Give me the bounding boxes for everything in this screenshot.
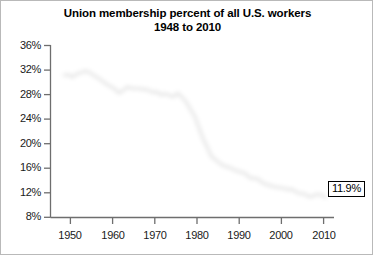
x-tick-label-6: 2010 [304,229,344,241]
x-axis-ticks [70,218,323,225]
x-tick-label-0: 1950 [50,229,90,241]
y-axis-ticks [44,46,51,218]
chart-figure: Union membership percent of all U.S. wor… [0,0,373,255]
chart-plot-area [1,1,373,255]
y-tick-label-5: 16% [1,161,41,173]
chart-axes [44,45,334,224]
y-tick-label-0: 36% [1,39,41,51]
y-tick-label-1: 32% [1,63,41,75]
y-tick-label-7: 8% [1,210,41,222]
data-line-union-membership [62,67,324,193]
x-tick-label-5: 2000 [261,229,301,241]
y-tick-label-6: 12% [1,186,41,198]
y-tick-label-3: 24% [1,112,41,124]
y-tick-label-4: 20% [1,137,41,149]
y-tick-label-2: 28% [1,88,41,100]
x-tick-label-1: 1960 [93,229,133,241]
x-tick-label-2: 1970 [135,229,175,241]
value-callout-badge: 11.9% [328,181,365,197]
x-tick-label-3: 1980 [177,229,217,241]
x-tick-label-4: 1990 [219,229,259,241]
